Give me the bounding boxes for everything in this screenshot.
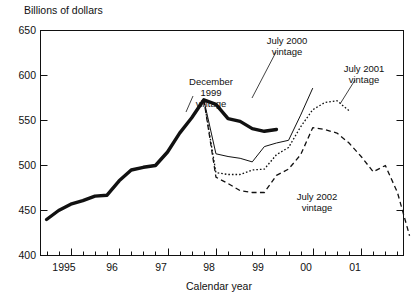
annotation-dec1999-line3: vintage: [196, 98, 227, 109]
leader-line-dec1999: [186, 96, 193, 112]
series-jul2000-line: [264, 88, 312, 147]
y-tick-label: 450: [18, 204, 36, 216]
y-axis-title: Billions of dollars: [24, 4, 103, 16]
y-tick-label: 650: [18, 24, 36, 36]
annotation-jul2000: July 2000 vintage: [267, 35, 308, 57]
x-axis-title: Calendar year: [186, 280, 252, 292]
chart-figure: Billions of dollars 650 600 550 500 450 …: [0, 0, 412, 295]
annotation-jul2002-line2: vintage: [302, 202, 333, 213]
annotation-jul2000-line2: vintage: [272, 46, 303, 57]
x-tick-label: 01: [349, 261, 361, 273]
x-axis-labels: 1995 96 97 98 99 00 01: [52, 261, 361, 273]
leader-line-jul2000: [252, 52, 276, 98]
x-tick-label: 00: [300, 261, 312, 273]
annotation-dec1999-line1: December: [189, 76, 233, 87]
annotation-jul2001-line2: vintage: [349, 74, 380, 85]
x-tick-label: 97: [155, 261, 167, 273]
y-tick-label: 400: [18, 249, 36, 261]
x-tick-label: 1995: [52, 261, 76, 273]
x-tick-label: 96: [106, 261, 118, 273]
x-tick-label: 99: [252, 261, 264, 273]
annotation-jul2001-line1: July 2001: [344, 63, 385, 74]
y-axis-labels: 650 600 550 500 450 400: [18, 24, 36, 261]
annotation-jul2002: July 2002 vintage: [297, 191, 338, 213]
annotation-dec1999-line2: 1999: [200, 87, 221, 98]
y-tick-label: 550: [18, 114, 36, 126]
x-axis-ticks: [48, 249, 398, 256]
annotation-jul2001: July 2001 vintage: [344, 63, 385, 85]
annotation-dec1999: December 1999 vintage: [189, 76, 233, 109]
annotation-jul2002-line1: July 2002: [297, 191, 338, 202]
series-actual-line: [47, 100, 277, 220]
series-group: [47, 88, 410, 236]
series-jul2001-line: [204, 100, 349, 175]
y-tick-label: 600: [18, 69, 36, 81]
annotation-jul2000-line1: July 2000: [267, 35, 308, 46]
x-tick-label: 98: [203, 261, 215, 273]
y-tick-label: 500: [18, 159, 36, 171]
